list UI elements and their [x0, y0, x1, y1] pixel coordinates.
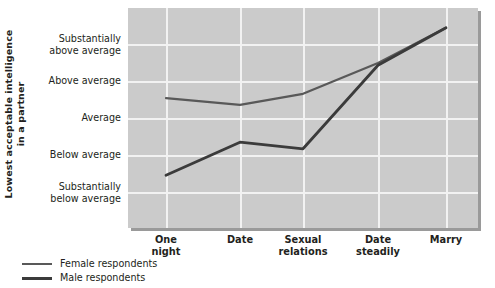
- y-tick-line-1: Below average: [29, 149, 121, 161]
- legend-label-female-respondents: Female respondents: [60, 258, 157, 270]
- x-tick-line-1: Marry: [403, 234, 489, 246]
- y-tick-line-1: Substantially: [29, 181, 121, 193]
- male-line-swatch-icon: [22, 277, 52, 280]
- female-line-swatch-icon: [22, 263, 52, 265]
- x-tick-line-2: relations: [260, 246, 346, 258]
- y-tick-line-1: Above average: [29, 75, 121, 87]
- x-tick-label-marry: Marry: [403, 234, 489, 246]
- y-axis-title-line-2: in a partner: [15, 30, 27, 199]
- y-tick-line-2: below average: [29, 192, 121, 204]
- y-tick-label-average: Average: [29, 112, 121, 124]
- y-axis-title: Lowest acceptable intelligence in a part…: [0, 0, 30, 228]
- x-tick-label-sexual-relations: Sexual relations: [260, 234, 346, 257]
- legend-item-male-respondents: Male respondents: [22, 271, 252, 285]
- y-tick-line-2: above average: [29, 44, 121, 56]
- y-tick-line-1: Average: [29, 112, 121, 124]
- x-tick-line-2: steadily: [335, 246, 421, 258]
- line-female-respondents: [166, 28, 446, 105]
- x-tick-line-1: Sexual: [260, 234, 346, 246]
- legend-item-female-respondents: Female respondents: [22, 257, 252, 271]
- plot-area: [128, 8, 478, 228]
- series-plot: [128, 8, 478, 228]
- y-tick-label-below-average: Below average: [29, 149, 121, 161]
- legend-label-male-respondents: Male respondents: [60, 272, 145, 284]
- y-tick-label-substantially-below-average: Substantially below average: [29, 181, 121, 204]
- y-tick-line-1: Substantially: [29, 33, 121, 45]
- y-axis-tick-labels: Substantially above average Above averag…: [30, 8, 125, 228]
- y-axis-title-line-1: Lowest acceptable intelligence: [3, 30, 15, 199]
- x-tick-line-2: night: [123, 246, 209, 258]
- y-tick-label-substantially-above-average: Substantially above average: [29, 33, 121, 56]
- chart-legend: Female respondents Male respondents: [22, 257, 252, 285]
- y-tick-label-above-average: Above average: [29, 75, 121, 87]
